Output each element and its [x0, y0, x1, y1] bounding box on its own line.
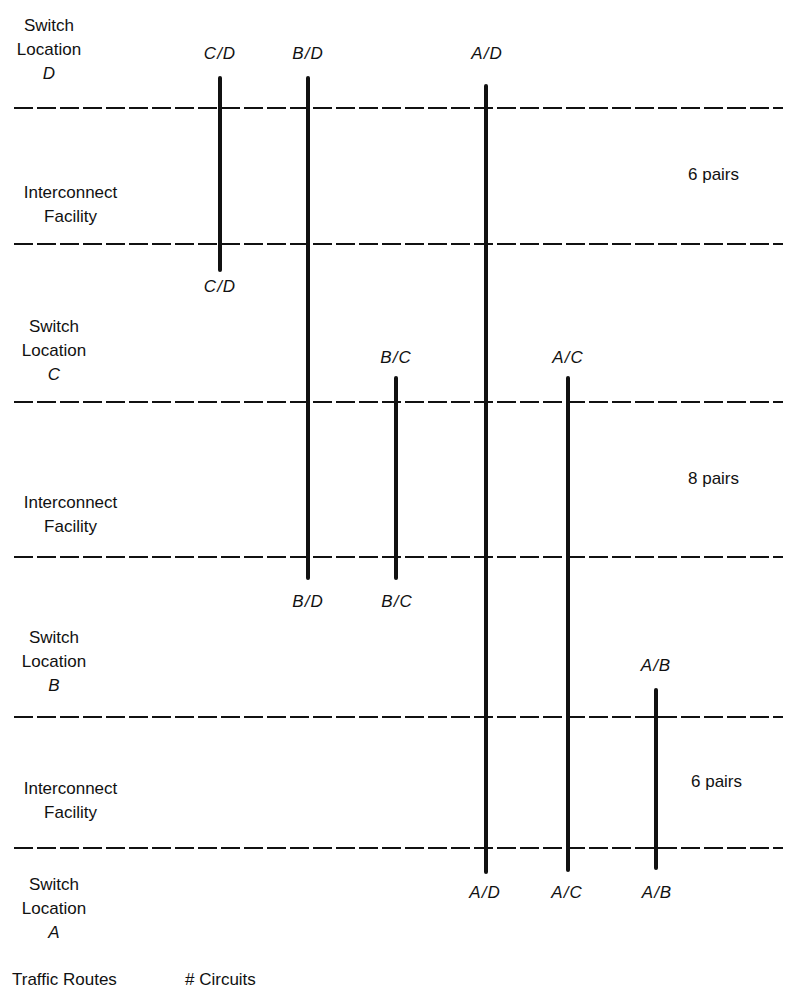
route-label-top-bd: B/D [292, 44, 323, 64]
location-letter: C [14, 363, 94, 387]
location-label-line2: Location [22, 652, 86, 671]
facility-boundaries [14, 108, 783, 848]
location-label-line1: Switch [29, 317, 79, 336]
route-label-bottom-ab: A/B [642, 883, 672, 903]
route-label-bottom-bd: B/D [292, 592, 323, 612]
route-label-bottom-ad: A/D [469, 883, 500, 903]
facility-label-line1: Interconnect [24, 779, 118, 798]
route-label-top-ab: A/B [641, 656, 671, 676]
location-letter: A [14, 921, 94, 945]
circuit-count-dc: 6 pairs [688, 165, 739, 185]
location-label-a: Switch Location A [14, 873, 94, 945]
location-label-line2: Location [17, 40, 81, 59]
facility-label-line2: Facility [44, 517, 97, 536]
route-label-bottom-bc: B/C [381, 592, 412, 612]
route-label-top-ad: A/D [471, 44, 502, 64]
location-label-line1: Switch [29, 875, 79, 894]
facility-label-line1: Interconnect [24, 493, 118, 512]
route-label-top-bc: B/C [380, 348, 411, 368]
route-label-top-cd: C/D [204, 44, 236, 64]
location-label-c: Switch Location C [14, 315, 94, 387]
route-label-bottom-ac: A/C [551, 883, 582, 903]
facility-label-dc: Interconnect Facility [13, 181, 128, 229]
location-label-line2: Location [22, 341, 86, 360]
location-label-line1: Switch [29, 628, 79, 647]
location-label-line1: Switch [24, 16, 74, 35]
traffic-route-lines [220, 78, 656, 872]
location-label-d: Switch Location D [14, 14, 84, 86]
location-letter: B [14, 674, 94, 698]
facility-label-ba: Interconnect Facility [13, 777, 128, 825]
facility-label-line2: Facility [44, 803, 97, 822]
location-label-b: Switch Location B [14, 626, 94, 698]
circuit-count-ba: 6 pairs [691, 772, 742, 792]
facility-label-cb: Interconnect Facility [13, 491, 128, 539]
route-label-top-ac: A/C [552, 348, 583, 368]
circuit-count-cb: 8 pairs [688, 469, 739, 489]
location-label-line2: Location [22, 899, 86, 918]
facility-label-line1: Interconnect [24, 183, 118, 202]
footer-traffic-routes: Traffic Routes [12, 970, 117, 990]
location-letter: D [14, 62, 84, 86]
footer-circuits: # Circuits [185, 970, 256, 990]
route-label-bottom-cd: C/D [204, 277, 236, 297]
facility-label-line2: Facility [44, 207, 97, 226]
